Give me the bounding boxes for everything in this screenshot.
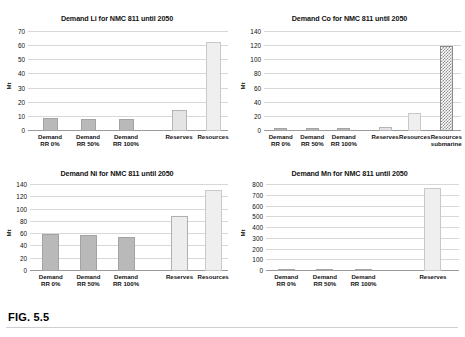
bar-demand-rr-100 [119,119,134,131]
x-axis-label: DemandRR 50% [76,273,100,288]
y-axis-tick: 800 [252,181,263,188]
bar-demand-rr-50 [316,269,333,271]
figure-caption: FIG. 5.5 [8,311,49,323]
plot-area-co: 020406080100120140 DemandRR 0%DemandRR 5… [264,32,461,131]
y-axis-tick: 40 [254,98,261,105]
x-axis-label-line1: Demand [76,133,100,140]
y-axis-tick: 30 [18,84,25,91]
bars-co: DemandRR 0%DemandRR 50%DemandRR 100%Rese… [264,32,461,131]
figure-5-5: Demand Li for NMC 811 until 2050 Mt 0102… [0,0,465,337]
y-axis-tick: 140 [250,28,261,35]
x-axis-label: Reserves [166,273,193,280]
y-axis-tick: 70 [18,28,25,35]
x-axis-label: Resources [198,273,229,280]
x-axis-label-line1: Reserves [419,273,446,280]
y-axis-tick: 300 [252,234,263,241]
x-axis-label-line1: Resources [399,133,430,140]
x-axis-label: DemandRR 100% [113,133,139,148]
bar-resources [408,113,421,131]
y-axis-tick: 20 [18,98,25,105]
chart-grid: Demand Li for NMC 811 until 2050 Mt 0102… [0,8,465,303]
y-axis-tick: 80 [20,217,27,224]
x-axis-label-line2: submarine [431,140,462,147]
x-axis-label: Reserves [419,273,446,280]
y-axis-tick: 400 [252,224,263,231]
x-axis-label-line2: RR 50% [76,280,100,287]
x-axis-label-line1: Resources [431,133,462,140]
x-axis-label-line1: Demand [351,273,375,280]
x-axis-label: Reserves [165,133,192,140]
x-axis-label: DemandRR 50% [313,273,337,288]
y-axis-label-co: Mt [240,82,246,89]
y-axis-tick: 0 [23,267,27,274]
x-axis-label: DemandRR 0% [269,133,293,148]
bar-reserves [424,188,441,271]
y-axis-tick: 20 [20,254,27,261]
x-axis-label-line2: RR 50% [300,140,324,147]
x-axis-label-line2: RR 50% [313,280,337,287]
x-axis-label: Resources [197,133,228,140]
x-axis-label-line1: Demand [313,273,337,280]
chart-title-ni: Demand Ni for NMC 811 until 2050 [0,169,234,178]
y-axis-tick: 10 [18,112,25,119]
x-axis-label-line1: Reserves [372,133,399,140]
x-axis-label-line1: Demand [269,133,293,140]
x-axis-label-line2: RR 0% [274,280,298,287]
x-axis-label-line1: Resources [197,133,228,140]
y-axis-tick: 20 [254,112,261,119]
x-axis-label-line2: RR 50% [76,140,100,147]
y-axis-tick: 0 [21,127,25,134]
bar-resources [206,42,221,131]
x-axis-label-line1: Demand [114,273,138,280]
x-axis-label-line1: Demand [274,273,298,280]
y-axis-tick: 140 [16,181,27,188]
x-axis-label: Resourcessubmarine [431,133,462,148]
x-axis-label: Reserves [372,133,399,140]
bar-resources-submarine [440,46,453,131]
chart-title-li: Demand Li for NMC 811 until 2050 [0,14,234,23]
y-axis-tick: 60 [20,230,27,237]
x-axis-label-line1: Resources [198,273,229,280]
bar-demand-rr-0 [274,128,287,131]
y-axis-tick: 700 [252,191,263,198]
bar-demand-rr-50 [306,128,319,131]
x-axis-label-line1: Demand [39,273,63,280]
chart-demand-li: Demand Li for NMC 811 until 2050 Mt 0102… [0,8,234,163]
plot-area-ni: 020406080100120140 DemandRR 0%DemandRR 5… [30,185,228,271]
x-axis-label-line2: RR 0% [269,140,293,147]
bar-demand-rr-0 [43,118,58,131]
y-axis-tick: 0 [257,127,261,134]
plot-area-mn: 0100200300400500600700800 DemandRR 0%Dem… [266,185,459,271]
bar-demand-rr-50 [80,235,97,271]
bars-li: DemandRR 0%DemandRR 50%DemandRR 100%Rese… [28,32,228,131]
x-axis-label: DemandRR 0% [274,273,298,288]
x-axis-label-line2: RR 100% [113,140,139,147]
y-axis-tick: 100 [16,205,27,212]
x-axis-label-line1: Demand [38,133,62,140]
y-axis-tick: 40 [18,70,25,77]
y-axis-tick: 100 [252,256,263,263]
bars-ni: DemandRR 0%DemandRR 50%DemandRR 100%Rese… [30,185,228,271]
chart-demand-co: Demand Co for NMC 811 until 2050 Mt 0204… [234,8,465,163]
y-axis-tick: 40 [20,242,27,249]
x-axis-label: DemandRR 100% [350,273,376,288]
x-axis-label-line2: RR 100% [113,280,139,287]
y-axis-label-ni: Mt [6,230,12,237]
chart-demand-mn: Demand Mn for NMC 811 until 2050 Mt 0100… [234,163,465,303]
x-axis-label-line1: Demand [76,273,100,280]
chart-title-mn: Demand Mn for NMC 811 until 2050 [234,169,465,178]
x-axis-label: DemandRR 0% [38,133,62,148]
bar-reserves [379,127,392,131]
chart-demand-ni: Demand Ni for NMC 811 until 2050 Mt 0204… [0,163,234,303]
y-axis-tick: 600 [252,202,263,209]
plot-area-li: 010203040506070 DemandRR 0%DemandRR 50%D… [28,32,228,131]
y-axis-tick: 80 [254,70,261,77]
y-axis-tick: 120 [16,193,27,200]
y-axis-tick: 100 [250,56,261,63]
bars-mn: DemandRR 0%DemandRR 50%DemandRR 100%Rese… [266,185,459,271]
x-axis-label-line2: RR 100% [350,280,376,287]
y-axis-tick: 50 [18,56,25,63]
x-axis-label-line2: RR 0% [39,280,63,287]
y-axis-tick: 60 [18,42,25,49]
x-axis-label: DemandRR 0% [39,273,63,288]
